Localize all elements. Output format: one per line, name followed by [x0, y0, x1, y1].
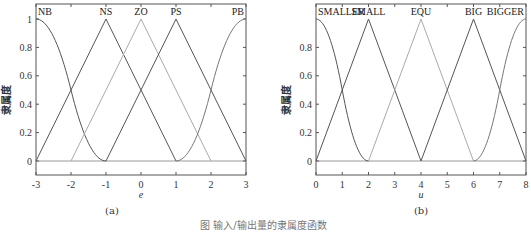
panel-label: (a): [105, 205, 119, 216]
mf-label-big: BIG: [465, 6, 482, 17]
x-tick-label: 3: [392, 179, 397, 190]
x-axis-label: u: [419, 189, 424, 200]
x-tick-label: -1: [102, 179, 110, 190]
x-tick-label: 0: [314, 179, 319, 190]
y-tick-label: 0.8: [300, 42, 313, 53]
axes-box: [316, 4, 526, 175]
x-axis-label: e: [139, 189, 144, 200]
y-tick-label: 0.8: [20, 42, 33, 53]
mf-label-equ: EQU: [411, 6, 432, 17]
mf-label-zo: ZO: [134, 6, 147, 17]
x-tick-label: 1: [340, 179, 345, 190]
mf-label-bigger: BIGGER: [487, 6, 525, 17]
x-tick-label: 1: [174, 179, 179, 190]
mf-label-pb: PB: [232, 6, 245, 17]
y-tick-label: 0.6: [300, 70, 313, 81]
mf-label-ps: PS: [170, 6, 181, 17]
y-tick-label: 1: [27, 14, 32, 25]
x-tick-label: 2: [366, 179, 371, 190]
panel-label: (b): [414, 205, 428, 216]
y-tick-label: 0: [27, 156, 32, 167]
x-tick-label: 5: [445, 179, 450, 190]
x-tick-label: 7: [497, 179, 502, 190]
x-tick-label: -3: [32, 179, 40, 190]
x-tick-label: -2: [67, 179, 75, 190]
y-tick-label: 0.2: [20, 127, 33, 138]
y-axis-label: 隶属度: [280, 84, 292, 115]
x-tick-label: 3: [244, 179, 249, 190]
y-axis-label: 隶属度: [0, 84, 12, 115]
mf-label-small: SMALL: [352, 6, 386, 17]
figure-caption: 图 输入/输出量的隶属度函数: [200, 219, 327, 231]
x-tick-label: 6: [471, 179, 476, 190]
y-tick-label: 0.6: [20, 70, 33, 81]
mf-curve-big: [421, 19, 526, 161]
mf-curve-equ: [369, 19, 474, 161]
figure: -3-2-1012300.20.40.60.81NBNSZOPSPB隶属度e(a…: [0, 0, 531, 232]
chart-panel-b: 01234567800.20.40.60.8SMALLERSMALLEQUBIG…: [280, 4, 529, 216]
y-tick-label: 0.2: [300, 127, 313, 138]
mf-label-nb: NB: [38, 6, 52, 17]
y-tick-label: 0.4: [300, 99, 313, 110]
chart-panel-a: -3-2-1012300.20.40.60.81NBNSZOPSPB隶属度e(a…: [0, 4, 249, 216]
y-tick-label: 0: [307, 156, 312, 167]
x-tick-label: 2: [209, 179, 214, 190]
y-tick-label: 0.4: [20, 99, 33, 110]
mf-curve-small: [316, 19, 421, 161]
mf-label-ns: NS: [100, 6, 113, 17]
x-tick-label: 8: [524, 179, 529, 190]
